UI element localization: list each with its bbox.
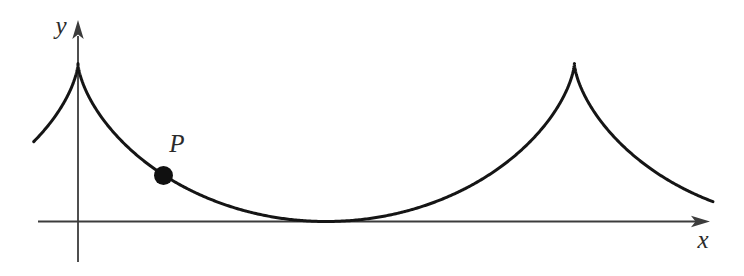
point-P-label: P [168, 130, 184, 157]
figure-cycloid-graph: y x P [0, 0, 744, 276]
cycloid-curve [34, 64, 713, 222]
y-axis-label: y [52, 12, 67, 39]
graph-svg: y x P [0, 0, 744, 276]
x-axis-label: x [696, 226, 708, 253]
point-P-marker [154, 166, 173, 185]
